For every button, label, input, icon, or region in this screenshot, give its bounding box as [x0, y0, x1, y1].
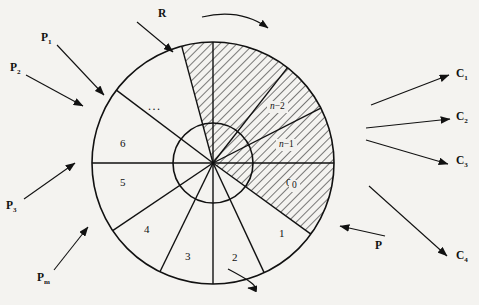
annotation-pm-leader: [54, 227, 88, 270]
annotation-c2-leader: [366, 119, 450, 128]
annotation-p2: P2: [10, 62, 21, 76]
rotation-arrow-top: [202, 14, 268, 28]
sector-label-1: 1: [279, 228, 285, 239]
annotation-c1-leader: [371, 75, 449, 105]
annotation-r: R: [158, 8, 166, 20]
label-n-minus-1: n−1: [276, 139, 297, 151]
sector-label-5: 5: [120, 177, 126, 188]
label-zero: 0: [289, 180, 300, 192]
sector-label-4: 4: [144, 224, 150, 235]
hatched-sector-group: [182, 42, 334, 234]
ellipsis-marker: ...: [148, 99, 162, 114]
label-n-minus-2: n−2: [267, 101, 288, 113]
sector-label-3: 3: [185, 251, 191, 262]
annotation-p: P: [375, 240, 382, 252]
rotary-disk-figure: [0, 0, 479, 305]
sector-label-6: 6: [120, 138, 126, 149]
annotation-p-leader: [340, 226, 385, 236]
annotation-c3: C3: [456, 155, 468, 169]
sector-label-2: 2: [232, 252, 238, 263]
annotation-c2: C2: [456, 111, 468, 125]
diagram-canvas: 0123456n−2n−10...RP1P2P3PmC1C2C3C4P: [0, 0, 479, 305]
annotation-p2-leader: [26, 75, 83, 106]
annotation-c3-leader: [366, 140, 448, 164]
annotation-p3-leader: [24, 163, 75, 199]
annotation-pm: Pm: [37, 272, 50, 286]
annotation-c1: C1: [456, 68, 468, 82]
annotation-p3: P3: [6, 200, 17, 214]
annotation-p1-leader: [57, 45, 104, 95]
annotation-c4: C4: [456, 250, 468, 264]
annotation-p1: P1: [41, 32, 52, 46]
sector-divider: [113, 163, 213, 231]
annotation-r-leader: [137, 22, 173, 52]
